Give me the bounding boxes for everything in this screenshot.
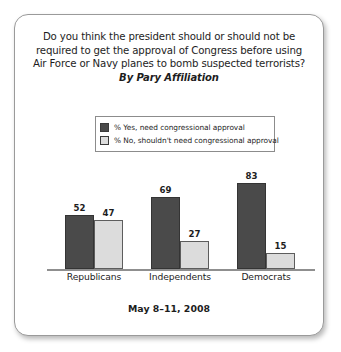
bar-rect-democrats-yes bbox=[237, 183, 266, 269]
chart-footer-date: May 8–11, 2008 bbox=[15, 303, 323, 314]
bar-republicans-no: 47 bbox=[94, 220, 123, 269]
bar-value-independents-yes: 69 bbox=[151, 185, 180, 195]
bar-value-independents-no: 27 bbox=[180, 229, 209, 239]
bar-rect-democrats-no bbox=[266, 253, 295, 269]
bar-group-democrats: 83 15 Democrats bbox=[221, 165, 311, 269]
bar-rect-independents-no bbox=[180, 241, 209, 269]
bar-republicans-yes: 52 bbox=[65, 215, 94, 269]
bar-chart-plot: 52 47 Republicans 69 27 bbox=[15, 15, 323, 335]
bar-value-republicans-yes: 52 bbox=[65, 203, 94, 213]
bar-group-independents: 69 27 Independents bbox=[135, 165, 225, 269]
bar-democrats-yes: 83 bbox=[237, 183, 266, 269]
bar-independents-no: 27 bbox=[180, 241, 209, 269]
category-label-independents: Independents bbox=[135, 271, 225, 282]
bar-value-republicans-no: 47 bbox=[94, 208, 123, 218]
bar-value-democrats-no: 15 bbox=[266, 241, 295, 251]
bar-rect-republicans-no bbox=[94, 220, 123, 269]
bar-group-republicans: 52 47 Republicans bbox=[49, 165, 139, 269]
category-label-republicans: Republicans bbox=[49, 271, 139, 282]
bar-democrats-no: 15 bbox=[266, 253, 295, 269]
category-label-democrats: Democrats bbox=[221, 271, 311, 282]
bar-independents-yes: 69 bbox=[151, 197, 180, 269]
bar-rect-independents-yes bbox=[151, 197, 180, 269]
bar-value-democrats-yes: 83 bbox=[237, 171, 266, 181]
chart-card: Do you think the president should or sho… bbox=[14, 14, 324, 336]
bar-rect-republicans-yes bbox=[65, 215, 94, 269]
